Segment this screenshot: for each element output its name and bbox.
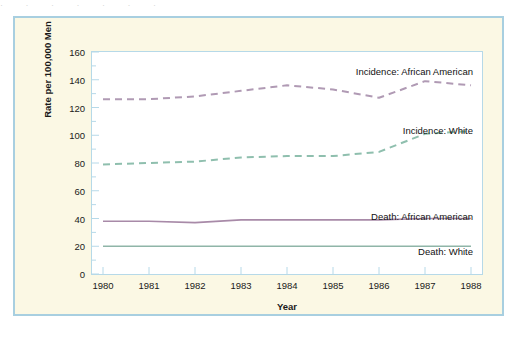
y-tick-label: 160 [59,47,85,58]
x-axis-title: Year [91,301,483,312]
x-tick-label: 1985 [311,280,355,291]
y-tick-label: 60 [59,185,85,196]
series-label-1: Incidence: White [15,125,473,136]
x-tick-label: 1988 [449,280,493,291]
x-tick-label: 1984 [265,280,309,291]
y-tick-label: 0 [59,269,85,280]
series-label-2: Death: African American [15,211,473,222]
series-line-1 [103,131,471,164]
series-line-0 [103,81,471,99]
chart-figure-frame: Rate per 100,000 Men 0204060801001201401… [13,16,504,316]
x-tick-label: 1981 [127,280,171,291]
y-axis-tick-labels: 020406080100120140160 [57,51,85,275]
series-label-0: Incidence: African American [15,66,473,77]
x-tick-label: 1982 [173,280,217,291]
x-tick-label: 1980 [81,280,125,291]
x-tick-label: 1983 [219,280,263,291]
x-tick-label: 1987 [403,280,447,291]
scan-artifact-top: · · · · · · · [0,0,519,10]
plot-area [91,51,483,275]
y-tick-label: 80 [59,158,85,169]
x-axis-tick-labels: 198019811982198319841985198619871988 [91,280,483,296]
y-tick-label: 120 [59,102,85,113]
chart-lines-svg [92,52,482,274]
chart-plot-wrapper: Rate per 100,000 Men 0204060801001201401… [15,18,506,318]
x-tick-label: 1986 [357,280,401,291]
series-label-3: Death: White [15,246,473,257]
